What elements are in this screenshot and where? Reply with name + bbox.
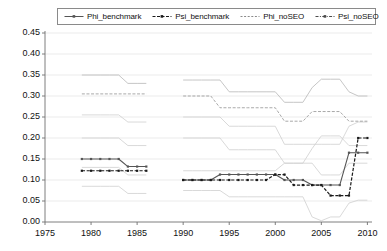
series-marker-Phi_benchmark xyxy=(99,158,101,160)
series-marker-Phi_benchmark xyxy=(108,158,110,160)
y-axis-tick-label: 0.05 xyxy=(4,195,40,205)
series-marker-Psi_benchmark xyxy=(274,173,276,175)
chart-plot-area xyxy=(0,0,387,251)
series-line-Phi_benchmark xyxy=(82,159,146,167)
series-marker-Psi_benchmark xyxy=(329,194,331,196)
series-marker-Phi_benchmark xyxy=(247,173,249,175)
series-marker-Psi_benchmark xyxy=(247,179,249,181)
series-marker-Phi_benchmark xyxy=(145,165,147,167)
series-marker-Phi_benchmark xyxy=(81,158,83,160)
series-marker-Psi_benchmark xyxy=(320,184,322,186)
series-marker-Phi_benchmark xyxy=(329,184,331,186)
x-axis-tick-label: 2010 xyxy=(349,228,385,238)
x-axis-tick-label: 1990 xyxy=(165,228,201,238)
series-marker-Phi_benchmark xyxy=(265,173,267,175)
series-line-Phi_noSEO xyxy=(183,79,367,102)
legend-item[interactable]: Psi_benchmark xyxy=(152,12,229,21)
series-marker-Phi_benchmark xyxy=(237,173,239,175)
series-line-band_mid xyxy=(183,163,367,175)
series-marker-Phi_benchmark xyxy=(118,158,120,160)
series-marker-Psi_benchmark xyxy=(228,179,230,181)
series-marker-Phi_benchmark xyxy=(219,173,221,175)
series-line-Phi_noSEO_lower xyxy=(183,117,367,144)
y-axis-tick-label: 0.25 xyxy=(4,111,40,121)
series-line-Phi_noSEO xyxy=(82,75,146,83)
series-marker-Psi_benchmark xyxy=(256,179,258,181)
series-marker-Psi_benchmark xyxy=(81,170,83,172)
series-marker-Psi_benchmark xyxy=(182,179,184,181)
series-line-Phi_noSEO_lower xyxy=(82,115,146,122)
y-axis-tick-label: 0.15 xyxy=(4,153,40,163)
chart-container: Phi_benchmarkPsi_benchmarkPhi_noSEOPsi_n… xyxy=(0,0,387,251)
series-marker-Psi_benchmark xyxy=(219,179,221,181)
series-marker-Psi_benchmark xyxy=(118,170,120,172)
series-marker-Psi_benchmark xyxy=(311,184,313,186)
series-marker-Phi_benchmark xyxy=(348,152,350,154)
series-marker-Psi_benchmark xyxy=(99,170,101,172)
series-line-Psi_noSEO_lower xyxy=(82,138,146,146)
legend-label: Psi_noSEO xyxy=(338,12,378,21)
series-marker-Phi_benchmark xyxy=(302,179,304,181)
series-marker-Psi_benchmark xyxy=(136,170,138,172)
legend-label: Psi_benchmark xyxy=(175,12,229,21)
x-axis-tick-label: 2005 xyxy=(303,228,339,238)
x-axis-tick-label: 1985 xyxy=(119,228,155,238)
series-marker-Psi_benchmark xyxy=(127,170,129,172)
legend-label: Phi_noSEO xyxy=(263,12,304,21)
series-marker-Psi_benchmark xyxy=(191,179,193,181)
legend-item[interactable]: Phi_benchmark xyxy=(64,12,141,21)
series-line-band_low xyxy=(82,186,146,193)
series-marker-Psi_benchmark xyxy=(108,170,110,172)
x-axis-tick-label: 1980 xyxy=(73,228,109,238)
y-axis-tick-label: 0.20 xyxy=(4,132,40,142)
y-axis-tick-label: 0.45 xyxy=(4,27,40,37)
series-marker-Phi_benchmark xyxy=(256,173,258,175)
series-marker-Psi_benchmark xyxy=(265,179,267,181)
legend-swatch-Psi_benchmark xyxy=(152,12,172,21)
series-marker-Psi_benchmark xyxy=(339,194,341,196)
series-marker-Psi_benchmark xyxy=(210,179,212,181)
x-axis-tick-label: 1995 xyxy=(211,228,247,238)
y-axis-tick-label: 0.30 xyxy=(4,90,40,100)
series-marker-Phi_benchmark xyxy=(127,165,129,167)
series-marker-Psi_benchmark xyxy=(283,173,285,175)
series-marker-Psi_benchmark xyxy=(302,184,304,186)
series-marker-Phi_benchmark xyxy=(90,158,92,160)
series-marker-Phi_benchmark xyxy=(228,173,230,175)
series-marker-Psi_benchmark xyxy=(200,179,202,181)
series-marker-Phi_benchmark xyxy=(366,152,368,154)
legend-swatch-Phi_benchmark xyxy=(64,12,84,21)
legend-item[interactable]: Psi_noSEO xyxy=(315,12,378,21)
series-marker-Psi_benchmark xyxy=(293,184,295,186)
series-marker-Phi_benchmark xyxy=(339,184,341,186)
series-marker-Phi_benchmark xyxy=(293,179,295,181)
series-marker-Psi_benchmark xyxy=(145,170,147,172)
series-line-Psi_benchmark xyxy=(183,138,367,196)
series-marker-Psi_benchmark xyxy=(237,179,239,181)
y-axis-tick-label: 0.00 xyxy=(4,216,40,226)
y-axis-tick-label: 0.40 xyxy=(4,48,40,58)
legend-label: Phi_benchmark xyxy=(87,12,141,21)
x-axis-tick-label: 2000 xyxy=(257,228,293,238)
legend-swatch-Psi_noSEO xyxy=(315,12,335,21)
legend-swatch-Phi_noSEO xyxy=(240,12,260,21)
series-marker-Phi_benchmark xyxy=(136,165,138,167)
chart-legend: Phi_benchmarkPsi_benchmarkPhi_noSEOPsi_n… xyxy=(57,8,376,25)
x-axis-tick-label: 1975 xyxy=(27,228,63,238)
y-axis-tick-label: 0.10 xyxy=(4,174,40,184)
series-marker-Phi_benchmark xyxy=(357,152,359,154)
series-marker-Phi_benchmark xyxy=(283,179,285,181)
series-marker-Psi_benchmark xyxy=(357,137,359,139)
y-axis-tick-label: 0.35 xyxy=(4,69,40,79)
series-marker-Psi_benchmark xyxy=(348,194,350,196)
legend-item[interactable]: Phi_noSEO xyxy=(240,12,304,21)
series-marker-Psi_benchmark xyxy=(366,137,368,139)
series-line-Psi_noSEO xyxy=(183,96,367,121)
series-marker-Psi_benchmark xyxy=(90,170,92,172)
